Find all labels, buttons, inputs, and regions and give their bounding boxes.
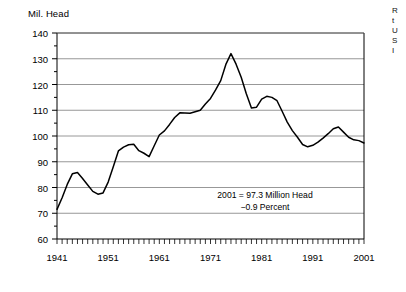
y-tick-60: 60 xyxy=(22,234,48,245)
side-note-line: I xyxy=(392,46,406,56)
side-note-line: t xyxy=(392,16,406,26)
y-tick-100: 100 xyxy=(22,131,48,142)
y-tick-120: 120 xyxy=(22,79,48,90)
y-tick-130: 130 xyxy=(22,53,48,64)
x-tick-1971: 1971 xyxy=(191,252,231,263)
side-note-text: RtUSI xyxy=(392,6,406,56)
y-tick-110: 110 xyxy=(22,105,48,116)
annotation-line-2: −0.9 Percent xyxy=(241,202,290,212)
x-tick-2001: 2001 xyxy=(344,252,384,263)
side-note-line: R xyxy=(392,6,406,16)
x-tick-1991: 1991 xyxy=(293,252,333,263)
x-tick-1961: 1961 xyxy=(139,252,179,263)
y-tick-140: 140 xyxy=(22,28,48,39)
annotation-line-1: 2001 = 97.3 Million Head xyxy=(217,190,312,200)
chart-plot-area xyxy=(0,0,406,292)
side-note-line: U xyxy=(392,26,406,36)
x-tick-1941: 1941 xyxy=(37,252,77,263)
cattle-inventory-chart: Mil. Head 60708090100110120130140 194119… xyxy=(0,0,406,292)
y-tick-80: 80 xyxy=(22,182,48,193)
x-tick-1951: 1951 xyxy=(88,252,128,263)
x-tick-1981: 1981 xyxy=(242,252,282,263)
y-tick-70: 70 xyxy=(22,208,48,219)
y-tick-90: 90 xyxy=(22,156,48,167)
side-note-line: S xyxy=(392,36,406,46)
